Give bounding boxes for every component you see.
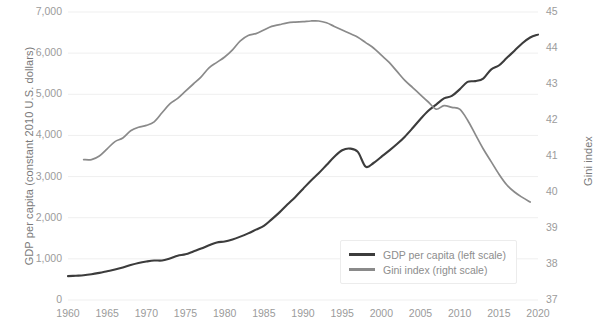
y-axis-right-tick-label: 41 bbox=[546, 149, 586, 161]
x-axis-tick-label: 2020 bbox=[518, 307, 558, 319]
x-axis-tick-label: 1990 bbox=[283, 307, 323, 319]
x-axis-tick-label: 1975 bbox=[166, 307, 206, 319]
y-axis-right-tick-label: 45 bbox=[546, 5, 586, 17]
y-axis-right-tick-label: 38 bbox=[546, 257, 586, 269]
plot-area bbox=[0, 0, 598, 335]
series-lines bbox=[68, 21, 538, 276]
x-axis-tick-label: 1965 bbox=[87, 307, 127, 319]
chart-legend: GDP per capita (left scale) Gini index (… bbox=[340, 240, 517, 284]
y-axis-left-tick-label: 7,000 bbox=[18, 5, 62, 17]
chart-container: GDP per capita (constant 2010 U.S. dolla… bbox=[0, 0, 598, 335]
y-axis-left-tick-label: 5,000 bbox=[18, 87, 62, 99]
x-axis-tick-label: 1995 bbox=[322, 307, 362, 319]
x-axis-tick-label: 2000 bbox=[361, 307, 401, 319]
legend-item-gdp: GDP per capita (left scale) bbox=[349, 247, 506, 262]
legend-label-gdp: GDP per capita (left scale) bbox=[383, 249, 506, 261]
y-axis-right-tick-label: 37 bbox=[546, 293, 586, 305]
y-axis-left-tick-label: 2,000 bbox=[18, 211, 62, 223]
y-axis-left-tick-label: 0 bbox=[18, 293, 62, 305]
legend-item-gini: Gini index (right scale) bbox=[349, 262, 506, 277]
y-axis-right-tick-label: 43 bbox=[546, 77, 586, 89]
legend-label-gini: Gini index (right scale) bbox=[383, 264, 487, 276]
x-axis-tick-label: 2010 bbox=[440, 307, 480, 319]
legend-swatch-gdp bbox=[349, 253, 375, 256]
x-axis-tick-label: 1980 bbox=[205, 307, 245, 319]
y-axis-left-tick-label: 4,000 bbox=[18, 128, 62, 140]
x-axis-tick-label: 2005 bbox=[401, 307, 441, 319]
x-axis-tick-label: 2015 bbox=[479, 307, 519, 319]
x-axis-tick-label: 1960 bbox=[48, 307, 88, 319]
y-axis-left-tick-label: 6,000 bbox=[18, 46, 62, 58]
x-axis-tick-label: 1970 bbox=[126, 307, 166, 319]
y-axis-right-tick-label: 40 bbox=[546, 185, 586, 197]
legend-swatch-gini bbox=[349, 268, 375, 271]
y-axis-right-tick-label: 39 bbox=[546, 221, 586, 233]
x-axis-tick-label: 1985 bbox=[244, 307, 284, 319]
series-line-gini bbox=[84, 21, 531, 202]
y-axis-right-tick-label: 42 bbox=[546, 113, 586, 125]
y-axis-left-tick-label: 3,000 bbox=[18, 170, 62, 182]
y-axis-left-tick-label: 1,000 bbox=[18, 252, 62, 264]
y-axis-right-tick-label: 44 bbox=[546, 41, 586, 53]
